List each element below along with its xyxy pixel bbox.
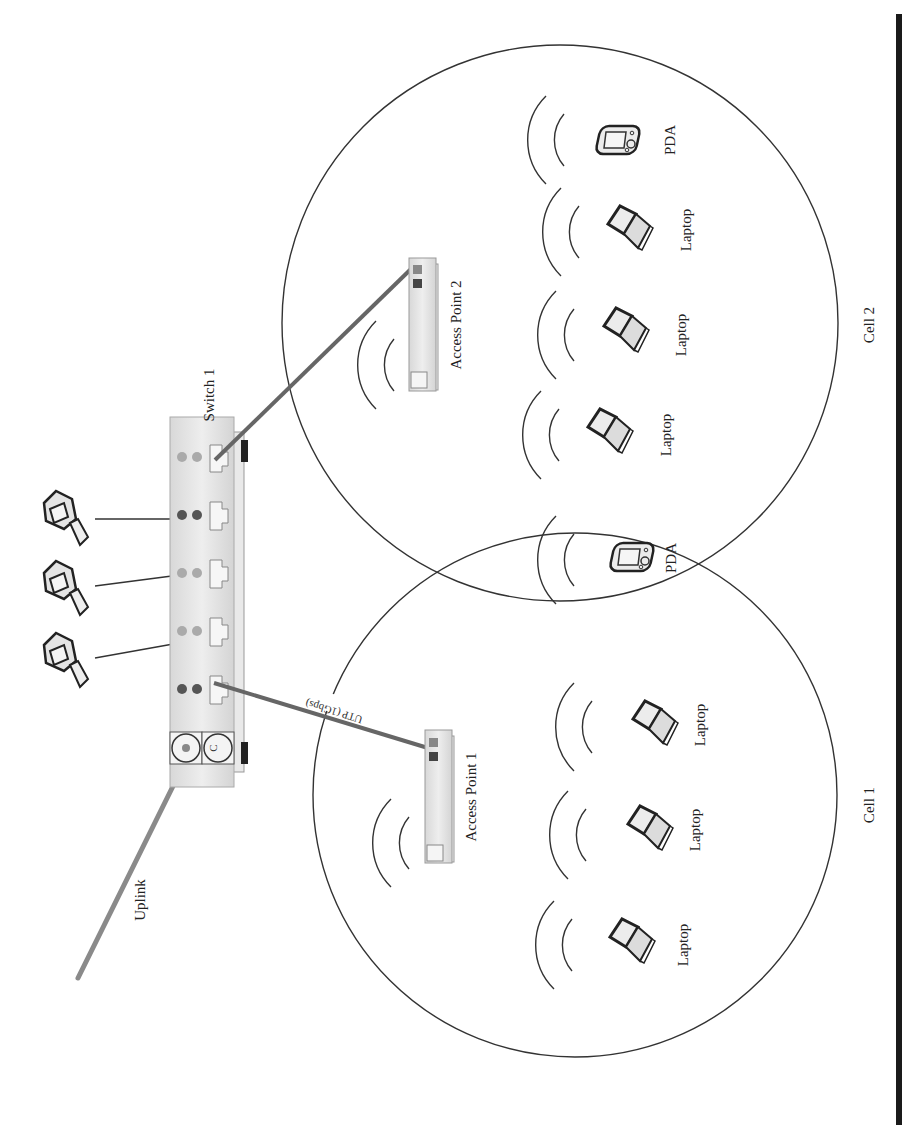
device-label: Laptop xyxy=(692,704,708,747)
cell-1-label: Cell 1 xyxy=(861,787,877,823)
wifi-icon xyxy=(528,96,564,184)
wifi-icon xyxy=(523,391,559,479)
laptop-icon[interactable] xyxy=(628,806,673,850)
device-label: Laptop xyxy=(678,209,694,252)
wireless-network-diagram: C Switch 1 UTP (1Gbps) Access Point 2 Ac… xyxy=(0,0,923,1125)
uplink-label: Uplink xyxy=(132,879,148,921)
access-point-2-label: Access Point 2 xyxy=(448,280,464,369)
cell-2-label: Cell 2 xyxy=(861,307,877,343)
ap1-wifi-icon xyxy=(373,799,409,887)
ap2-wifi-icon xyxy=(358,321,394,409)
wifi-icon xyxy=(538,516,574,604)
laptop-icon[interactable] xyxy=(608,206,653,250)
uplink-cable xyxy=(78,772,180,978)
cell-1-circle xyxy=(313,533,837,1057)
laptop-icon[interactable] xyxy=(588,409,633,453)
wifi-icon xyxy=(556,683,592,771)
desktop-pc-icon[interactable] xyxy=(44,633,88,687)
device-label: Laptop xyxy=(658,414,674,457)
access-point-1[interactable] xyxy=(425,730,454,863)
page-rule xyxy=(896,14,902,1125)
shared-device-label: PDA xyxy=(663,543,679,573)
wifi-icon xyxy=(550,791,586,879)
switch-1-label: Switch 1 xyxy=(201,369,217,422)
cable-switch-ap2 xyxy=(215,268,412,460)
device-label: Laptop xyxy=(673,314,689,357)
access-point-2[interactable] xyxy=(409,258,438,391)
console-port-label: C xyxy=(207,744,219,751)
pda-icon[interactable] xyxy=(595,126,641,154)
device-label: PDA xyxy=(662,125,678,155)
wifi-icon xyxy=(543,188,579,276)
laptop-icon[interactable] xyxy=(604,308,649,352)
device-label: Laptop xyxy=(687,809,703,852)
desktop-pc-icon[interactable] xyxy=(44,491,88,545)
laptop-icon[interactable] xyxy=(633,701,678,745)
pda-icon[interactable] xyxy=(609,543,655,571)
cell-2-circle xyxy=(282,45,838,601)
wifi-icon xyxy=(538,291,574,379)
access-point-1-label: Access Point 1 xyxy=(463,752,479,841)
desktop-pc-icon[interactable] xyxy=(44,561,88,615)
device-label: Laptop xyxy=(675,924,691,967)
switch-1[interactable]: C xyxy=(170,417,248,787)
laptop-icon[interactable] xyxy=(610,919,655,963)
wifi-icon xyxy=(536,901,572,989)
